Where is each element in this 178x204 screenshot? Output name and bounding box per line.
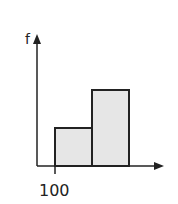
x-tick-label: 100	[39, 181, 70, 200]
x-axis-arrow-icon	[154, 162, 164, 170]
y-axis-label: f	[25, 31, 31, 47]
bar-1	[55, 128, 92, 166]
y-axis-arrow-icon	[33, 34, 41, 44]
bar-2	[92, 90, 129, 166]
histogram-chart: f 100	[0, 0, 178, 204]
